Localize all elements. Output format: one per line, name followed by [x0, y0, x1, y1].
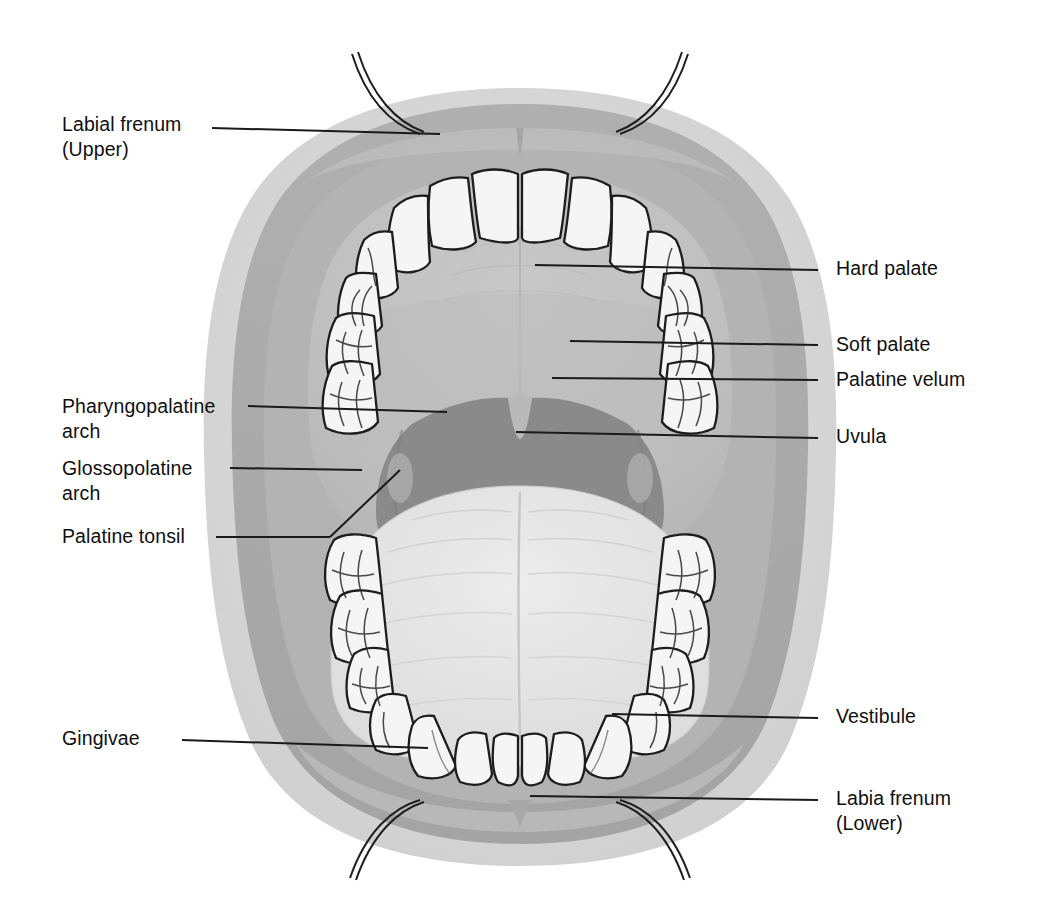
label-vestibule-line1: Vestibule — [836, 704, 916, 729]
label-pharyngopalatine-arch: Pharyngopalatinearch — [62, 394, 215, 444]
tooth-upper-lateral-incisor-right — [564, 177, 611, 249]
label-labial-frenum-upper: Labial frenum(Upper) — [62, 112, 181, 162]
tooth-lower-lateral-incisor-right — [548, 732, 585, 784]
label-pharyngopalatine-arch-line1: Pharyngopalatine — [62, 394, 215, 419]
label-hard-palate-line1: Hard palate — [836, 256, 938, 281]
label-glossopolatine-arch-line1: Glossopolatine — [62, 456, 192, 481]
tooth-upper-central-incisor-right — [522, 170, 568, 243]
label-pharyngopalatine-arch-line2: arch — [62, 419, 215, 444]
tooth-upper-lateral-incisor-left — [429, 177, 476, 249]
label-uvula-line1: Uvula — [836, 424, 886, 449]
tooth-lower-lateral-incisor-left — [455, 732, 492, 784]
label-gingivae-line1: Gingivae — [62, 726, 140, 751]
label-labial-frenum-upper-line1: Labial frenum — [62, 112, 181, 137]
label-palatine-velum: Palatine velum — [836, 367, 965, 392]
label-palatine-tonsil-line1: Palatine tonsil — [62, 524, 185, 549]
label-hard-palate: Hard palate — [836, 256, 938, 281]
tooth-upper-molar2-right — [662, 361, 717, 433]
label-labial-frenum-upper-line2: (Upper) — [62, 137, 181, 162]
label-labia-frenum-lower: Labia frenum(Lower) — [836, 786, 951, 836]
label-uvula: Uvula — [836, 424, 886, 449]
tooth-lower-central-incisor-left — [493, 734, 518, 786]
label-soft-palate: Soft palate — [836, 332, 930, 357]
label-gingivae: Gingivae — [62, 726, 140, 751]
label-glossopolatine-arch-line2: arch — [62, 481, 192, 506]
label-glossopolatine-arch: Glossopolatinearch — [62, 456, 192, 506]
label-palatine-velum-line1: Palatine velum — [836, 367, 965, 392]
label-soft-palate-line1: Soft palate — [836, 332, 930, 357]
palatine-tonsil-right — [627, 453, 653, 503]
tooth-upper-central-incisor-left — [472, 170, 518, 243]
tooth-upper-molar2-left — [323, 361, 378, 433]
label-labia-frenum-lower-line2: (Lower) — [836, 811, 951, 836]
label-vestibule: Vestibule — [836, 704, 916, 729]
label-labia-frenum-lower-line1: Labia frenum — [836, 786, 951, 811]
label-palatine-tonsil: Palatine tonsil — [62, 524, 185, 549]
tooth-lower-central-incisor-right — [522, 734, 547, 786]
